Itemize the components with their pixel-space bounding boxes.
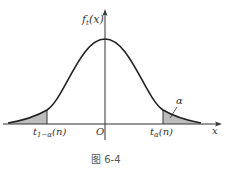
y-axis-label: ft(x) bbox=[82, 14, 104, 27]
figure-caption: 图 6-4 bbox=[91, 155, 121, 165]
y-axis-label-arg: (x) bbox=[89, 13, 104, 26]
left-quantile-sub: 1−α bbox=[37, 131, 52, 139]
x-axis-label: x bbox=[212, 126, 218, 136]
t-distribution-diagram bbox=[0, 0, 233, 179]
right-quantile-arg: (n) bbox=[159, 126, 173, 137]
left-quantile-label: t1−α(n) bbox=[33, 127, 66, 139]
tail-area-label: α bbox=[176, 96, 183, 106]
left-quantile-arg: (n) bbox=[52, 126, 66, 137]
right-quantile-label: tα(n) bbox=[150, 127, 173, 139]
origin-label: O bbox=[96, 127, 104, 137]
